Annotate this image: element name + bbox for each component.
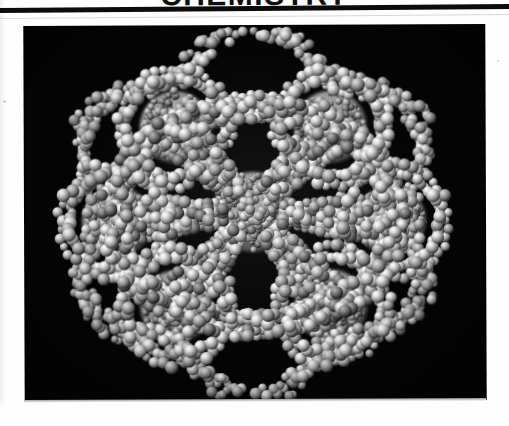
molecular-structure-plate bbox=[24, 25, 485, 401]
scanned-page: CHEMISTRY bbox=[0, 0, 509, 426]
paper-speck bbox=[3, 100, 6, 103]
paper-bottom-margin bbox=[0, 404, 509, 426]
masthead-rule-hairline bbox=[0, 14, 509, 19]
molecule-stage bbox=[24, 25, 485, 401]
paper-left-edge bbox=[0, 0, 6, 426]
plate-bottom-shadow bbox=[24, 398, 486, 403]
paper-speck bbox=[497, 60, 499, 62]
molecule-illustration bbox=[24, 25, 485, 401]
